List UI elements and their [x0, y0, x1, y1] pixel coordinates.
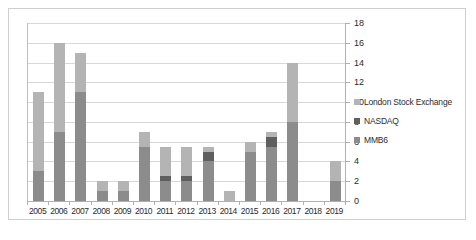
- y-axis-tick: [345, 43, 350, 44]
- y-axis-tick: [345, 102, 350, 103]
- stacked-bar[interactable]: [139, 132, 150, 201]
- bar-column[interactable]: [113, 23, 134, 201]
- bar-segment[interactable]: [139, 132, 150, 147]
- x-axis-tick-label: 2011: [154, 206, 175, 220]
- x-axis-tick: [239, 201, 240, 205]
- legend-item-label: NASDAQ: [364, 116, 399, 126]
- x-axis-tick: [197, 201, 198, 205]
- bar-segment[interactable]: [97, 181, 108, 191]
- y-axis-tick-label: 0: [354, 197, 359, 206]
- stacked-bar[interactable]: [54, 43, 65, 201]
- x-axis-tick: [324, 201, 325, 205]
- bar-segment[interactable]: [97, 191, 108, 201]
- bar-segment[interactable]: [245, 152, 256, 201]
- bar-segment[interactable]: [181, 181, 192, 201]
- bar-column[interactable]: [176, 23, 197, 201]
- bar-segment[interactable]: [330, 161, 341, 181]
- bar-segment[interactable]: [139, 147, 150, 201]
- legend-swatch-icon: [354, 137, 360, 143]
- stacked-bar[interactable]: [330, 161, 341, 201]
- legend-swatch-icon: [354, 99, 360, 105]
- y-axis-tick: [345, 142, 350, 143]
- x-axis-tick: [154, 201, 155, 205]
- x-axis-tick: [260, 201, 261, 205]
- bar-segment[interactable]: [75, 53, 86, 93]
- x-axis-tick-label: 2017: [281, 206, 302, 220]
- y-axis-tick: [345, 63, 350, 64]
- x-axis-tick: [112, 201, 113, 205]
- y-axis-line: [345, 23, 346, 201]
- x-axis-tick-label: 2012: [175, 206, 196, 220]
- x-axis-tick: [133, 201, 134, 205]
- bar-column[interactable]: [49, 23, 70, 201]
- bar-segment[interactable]: [224, 191, 235, 201]
- y-axis-tick: [345, 181, 350, 182]
- bar-segment[interactable]: [54, 43, 65, 132]
- bar-column[interactable]: [303, 23, 324, 201]
- bar-column[interactable]: [28, 23, 49, 201]
- bar-segment[interactable]: [181, 147, 192, 177]
- bar-column[interactable]: [70, 23, 91, 201]
- stacked-bar[interactable]: [181, 147, 192, 201]
- x-axis-tick: [175, 201, 176, 205]
- stacked-bar[interactable]: [266, 132, 277, 201]
- y-axis-tick: [345, 122, 350, 123]
- bar-column[interactable]: [198, 23, 219, 201]
- y-axis-tick-label: 14: [354, 59, 364, 68]
- x-axis-tick: [69, 201, 70, 205]
- bar-segment[interactable]: [330, 181, 341, 201]
- stacked-bar[interactable]: [97, 181, 108, 201]
- bar-column[interactable]: [92, 23, 113, 201]
- x-axis-tick-label: 2010: [133, 206, 154, 220]
- legend-item[interactable]: NASDAQ: [354, 116, 464, 126]
- bar-column[interactable]: [282, 23, 303, 201]
- bar-segment[interactable]: [33, 171, 44, 201]
- x-axis-tick-label: 2013: [197, 206, 218, 220]
- bar-segment[interactable]: [33, 92, 44, 171]
- x-axis-tick: [91, 201, 92, 205]
- bar-segment[interactable]: [203, 161, 214, 201]
- legend-item-label: MMB6: [364, 135, 388, 145]
- x-axis-tick-label: 2018: [302, 206, 323, 220]
- bar-segment[interactable]: [266, 137, 277, 147]
- bar-segment[interactable]: [245, 142, 256, 152]
- stacked-bar[interactable]: [245, 142, 256, 201]
- bar-column[interactable]: [219, 23, 240, 201]
- bar-column[interactable]: [155, 23, 176, 201]
- stacked-bar[interactable]: [75, 53, 86, 201]
- legend-item[interactable]: MMB6: [354, 135, 464, 145]
- x-axis-tick: [48, 201, 49, 205]
- bar-segment[interactable]: [75, 92, 86, 201]
- x-axis-tick: [218, 201, 219, 205]
- bar-segment[interactable]: [118, 181, 129, 191]
- bar-segment[interactable]: [118, 191, 129, 201]
- stacked-bar[interactable]: [118, 181, 129, 201]
- x-axis-tick-label: 2015: [239, 206, 260, 220]
- stacked-bar[interactable]: [33, 92, 44, 201]
- x-axis-tick: [303, 201, 304, 205]
- x-axis-tick-label: 2019: [324, 206, 345, 220]
- bar-segment[interactable]: [287, 63, 298, 122]
- stacked-bar[interactable]: [203, 147, 214, 201]
- bar-segment[interactable]: [160, 147, 171, 177]
- bar-column[interactable]: [261, 23, 282, 201]
- plot-area: [27, 23, 345, 201]
- bar-column[interactable]: [240, 23, 261, 201]
- legend-item[interactable]: London Stock Exchange: [354, 97, 464, 107]
- bar-segment[interactable]: [54, 132, 65, 201]
- bar-segment[interactable]: [287, 122, 298, 201]
- y-axis-tick-label: 18: [354, 19, 364, 28]
- bar-segment[interactable]: [266, 147, 277, 201]
- x-axis-tick-label: 2005: [27, 206, 48, 220]
- x-axis-labels: 2005200620072008200920102011201220132014…: [27, 206, 345, 220]
- bar-column[interactable]: [134, 23, 155, 201]
- stacked-bar[interactable]: [160, 147, 171, 201]
- bar-column[interactable]: [325, 23, 346, 201]
- x-axis-tick-label: 2009: [112, 206, 133, 220]
- y-axis-tick-label: 2: [354, 177, 359, 186]
- x-axis-tick-label: 2008: [91, 206, 112, 220]
- stacked-bar[interactable]: [224, 191, 235, 201]
- bar-segment[interactable]: [160, 181, 171, 201]
- bar-segment[interactable]: [203, 152, 214, 162]
- stacked-bar[interactable]: [287, 63, 298, 201]
